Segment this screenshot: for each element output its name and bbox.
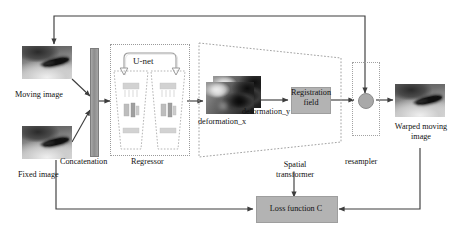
regressor-label: Regressor xyxy=(131,157,164,167)
unet-encoder-trapezoid xyxy=(113,70,149,150)
warped-line2: image xyxy=(411,132,431,141)
resampler-node-circle xyxy=(358,93,374,109)
spatial-transformer-line2: transformer xyxy=(276,170,314,179)
warped-line1: Warped moving xyxy=(395,122,447,131)
fixed-image-label: Fixed image xyxy=(18,170,59,180)
registration-field-label: Registration field xyxy=(283,88,339,107)
warped-moving-image-label: Warped moving image xyxy=(386,122,456,141)
moving-image-thumbnail xyxy=(22,46,72,79)
unet-decoder-trapezoid xyxy=(150,70,186,150)
spatial-transformer-label: Spatial transformer xyxy=(264,160,326,179)
concatenation-bar xyxy=(90,48,99,157)
unet-label: U-net xyxy=(133,56,154,66)
spatial-transformer-line1: Spatial xyxy=(284,160,307,169)
registration-field-line2: field xyxy=(303,98,318,107)
moving-image-label: Moving image xyxy=(15,90,63,100)
wire-fixed-to-loss xyxy=(56,160,253,209)
deformation-x-label: deformation_x xyxy=(198,117,246,127)
deformation-y-label: deformation_y xyxy=(242,107,290,117)
loss-function-label: Loss function C xyxy=(256,204,336,214)
concatenation-label: Concatenation xyxy=(60,157,107,167)
fixed-image-thumbnail xyxy=(22,126,72,159)
resampler-label: resampler xyxy=(345,157,377,167)
warped-moving-image-thumbnail xyxy=(395,84,445,117)
diagram-canvas: Moving image Fixed image Concatenation U… xyxy=(0,0,462,237)
wire-moving-to-concat xyxy=(72,79,90,96)
registration-field-line1: Registration xyxy=(291,88,331,97)
wire-fixed-to-concat xyxy=(72,110,90,142)
